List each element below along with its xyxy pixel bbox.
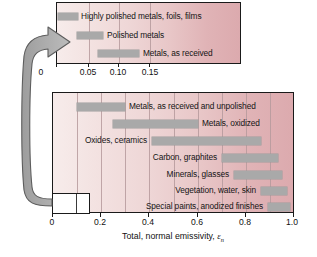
axis-title-subscript-n: n: [221, 236, 224, 243]
top-chart-bar-polished-metals: [77, 32, 103, 39]
top-chart-ticklabel-0: 0: [39, 68, 44, 77]
bottom-chart-bar-metals-oxidized: [113, 120, 198, 128]
emissivity-figure: Highly polished metals, foils, films Pol…: [0, 0, 317, 257]
top-chart-ticklabel-0.05: 0.05: [80, 68, 97, 77]
top-chart-label-highly-polished-metals: Highly polished metals, foils, films: [81, 12, 201, 21]
magnified-region-callout-divider: [76, 194, 77, 213]
bottom-chart-ticklabel-0.4: 0.4: [142, 218, 154, 227]
bottom-chart-bar-metals-as-received-unpolished: [77, 103, 125, 111]
bottom-chart-bar-vegetation-water-skin: [261, 187, 287, 195]
bottom-chart-label-vegetation-water-skin: Vegetation, water, skin: [175, 186, 256, 195]
bottom-chart-ticklabel-0.6: 0.6: [191, 218, 203, 227]
top-chart-bar-metals-as-received: [98, 50, 139, 57]
bottom-chart-gridline-0.3: [125, 93, 126, 212]
bottom-chart-label-oxides-ceramics: Oxides, ceramics: [85, 136, 147, 145]
top-chart-ticklabel-0.15: 0.15: [142, 68, 159, 77]
bottom-chart-label-metals-as-received-unpolished: Metals, as received and unpolished: [129, 102, 256, 111]
magnified-region-callout-box: [52, 193, 90, 214]
top-magnified-chart: Highly polished metals, foils, films Pol…: [56, 2, 241, 64]
bottom-chart-ticklabel-0: 0: [50, 218, 55, 227]
top-chart-bar-highly-polished-metals: [58, 13, 78, 20]
bottom-chart-bar-minerals-glasses: [234, 171, 282, 179]
bottom-chart-bar-carbon-graphites: [222, 154, 278, 162]
top-chart-ticklabel-0.10: 0.10: [110, 68, 127, 77]
bottom-chart-ticklabel-0.8: 0.8: [239, 218, 251, 227]
bottom-chart-ticklabel-0.2: 0.2: [94, 218, 106, 227]
top-chart-label-metals-as-received: Metals, as received: [143, 49, 213, 58]
top-chart-tick-0: [56, 64, 57, 67]
bottom-chart-bar-oxides-ceramics: [152, 137, 261, 145]
axis-title-text: Total, normal emissivity,: [122, 231, 215, 241]
bottom-chart-ticklabel-1.0: 1.0: [286, 218, 298, 227]
top-chart-label-polished-metals: Polished metals: [107, 31, 164, 40]
bottom-chart-label-metals-oxidized: Metals, oxidized: [202, 119, 260, 128]
bottom-chart-label-minerals-glasses: Minerals, glasses: [167, 170, 229, 179]
bottom-chart-axis-title: Total, normal emissivity, εn: [122, 231, 224, 245]
bottom-chart-label-special-paints: Special paints, anodized finishes: [146, 202, 263, 211]
bottom-chart-label-carbon-graphites: Carbon, graphites: [153, 153, 217, 162]
bottom-chart-bar-special-paints: [268, 203, 290, 211]
